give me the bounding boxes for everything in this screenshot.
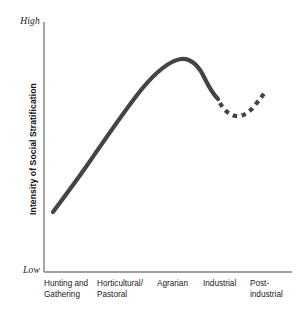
- x-axis-tick-label: Horticultural/ Pastoral: [97, 279, 143, 300]
- trend-line-solid: [53, 59, 218, 212]
- chart-container: High Low Intensity of Social Stratificat…: [0, 0, 299, 312]
- x-axis-tick-label: Agrarian: [157, 279, 188, 290]
- x-axis-tick-label: Industrial: [203, 279, 236, 290]
- y-axis-high-label: High: [8, 16, 40, 26]
- y-axis-title: Intensity of Social Stratification: [28, 54, 38, 244]
- x-axis-tick-label: Hunting and Gathering: [44, 279, 88, 300]
- y-axis-low-label: Low: [8, 265, 40, 275]
- trend-line-dashed-projection: [220, 91, 266, 116]
- x-axis-tick-label: Post- industrial: [250, 279, 283, 300]
- chart-plot-area: [0, 0, 299, 312]
